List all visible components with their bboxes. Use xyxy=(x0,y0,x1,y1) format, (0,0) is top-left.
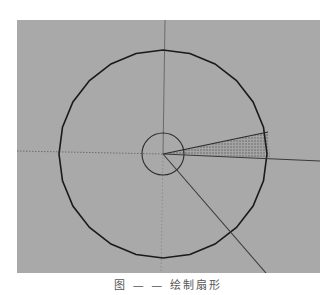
drawing-canvas xyxy=(17,20,320,273)
diagonal-line[interactable] xyxy=(163,154,266,273)
axis-vertical-up xyxy=(163,20,165,154)
figure-caption: 图 — — 绘制扇形 xyxy=(0,279,336,295)
axis-dotted-left xyxy=(17,151,163,154)
shaded-sector[interactable] xyxy=(163,132,270,158)
drawing-viewport[interactable] xyxy=(17,20,320,273)
axis-dotted-down xyxy=(161,154,163,273)
